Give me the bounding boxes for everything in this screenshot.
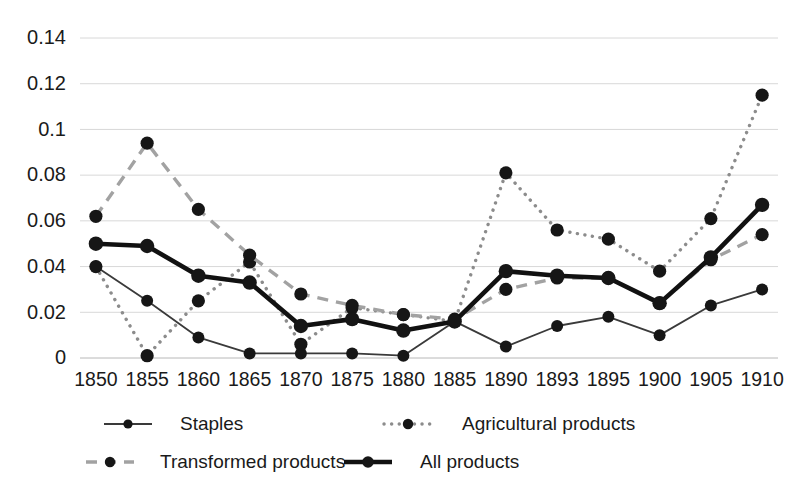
y-tick-label: 0.04 bbox=[27, 255, 66, 277]
legend-marker-swatch bbox=[123, 419, 132, 428]
y-tick-label: 0.02 bbox=[27, 301, 66, 323]
data-point-marker bbox=[294, 338, 307, 351]
data-point-marker bbox=[141, 137, 154, 150]
data-point-marker bbox=[397, 350, 409, 362]
x-tick-label: 1895 bbox=[587, 368, 631, 390]
data-point-marker bbox=[653, 265, 666, 278]
legend-item-transformed-products[interactable]: Transformed products bbox=[86, 451, 345, 472]
series-line bbox=[96, 143, 762, 319]
x-tick-label: 1865 bbox=[228, 368, 272, 390]
data-point-marker bbox=[345, 312, 359, 326]
data-point-marker bbox=[756, 89, 769, 102]
x-tick-label: 1885 bbox=[433, 368, 477, 390]
data-point-marker bbox=[141, 349, 154, 362]
y-axis-tick-labels: 00.020.040.060.080.10.120.14 bbox=[27, 26, 66, 368]
y-tick-label: 0.06 bbox=[27, 209, 66, 231]
data-point-marker bbox=[499, 264, 513, 278]
legend-marker-swatch bbox=[105, 457, 115, 467]
data-point-marker bbox=[192, 203, 205, 216]
x-tick-label: 1893 bbox=[535, 368, 578, 390]
data-point-marker bbox=[602, 233, 615, 246]
x-tick-label: 1850 bbox=[74, 368, 118, 390]
data-point-marker bbox=[192, 294, 205, 307]
data-point-marker bbox=[654, 329, 666, 341]
legend-marker-swatch bbox=[362, 456, 374, 468]
data-point-marker bbox=[499, 283, 512, 296]
x-tick-label: 1905 bbox=[689, 368, 733, 390]
data-point-marker bbox=[244, 347, 256, 359]
data-point-marker bbox=[602, 311, 614, 323]
x-tick-label: 1910 bbox=[740, 368, 784, 390]
x-tick-label: 1855 bbox=[125, 368, 169, 390]
data-point-marker bbox=[705, 299, 717, 311]
data-point-marker bbox=[294, 287, 307, 300]
y-tick-label: 0 bbox=[55, 346, 66, 368]
data-point-marker bbox=[191, 269, 205, 283]
data-point-marker bbox=[346, 347, 358, 359]
legend-label: Transformed products bbox=[160, 451, 345, 472]
series-line bbox=[96, 95, 762, 356]
data-point-marker bbox=[704, 212, 717, 225]
x-tick-label: 1900 bbox=[638, 368, 682, 390]
data-point-marker bbox=[704, 250, 718, 264]
y-tick-label: 0.12 bbox=[27, 72, 66, 94]
data-point-marker bbox=[192, 331, 204, 343]
data-point-marker bbox=[499, 166, 512, 179]
data-point-marker bbox=[652, 296, 666, 310]
x-tick-label: 1870 bbox=[279, 368, 323, 390]
data-point-marker bbox=[397, 308, 410, 321]
legend-label: Agricultural products bbox=[462, 413, 635, 434]
data-point-marker bbox=[756, 283, 768, 295]
x-tick-label: 1875 bbox=[330, 368, 374, 390]
gridlines bbox=[80, 38, 778, 358]
chart-legend: StaplesAgricultural productsTransformed … bbox=[86, 413, 635, 472]
data-point-marker bbox=[242, 275, 256, 289]
data-point-marker bbox=[140, 239, 154, 253]
data-point-marker bbox=[500, 341, 512, 353]
x-axis-tick-labels: 1850185518601865187018751880188518901893… bbox=[74, 368, 784, 390]
legend-label: Staples bbox=[180, 413, 243, 434]
x-tick-label: 1860 bbox=[177, 368, 221, 390]
legend-label: All products bbox=[420, 451, 519, 472]
data-point-marker bbox=[601, 271, 615, 285]
data-point-marker bbox=[89, 237, 103, 251]
data-point-marker bbox=[551, 223, 564, 236]
data-point-marker bbox=[756, 228, 769, 241]
x-tick-label: 1890 bbox=[484, 368, 528, 390]
data-point-marker bbox=[89, 210, 102, 223]
data-point-marker bbox=[89, 260, 102, 273]
chart-container: 00.020.040.060.080.10.120.14 18501855186… bbox=[0, 0, 792, 495]
legend-marker-swatch bbox=[403, 419, 413, 429]
y-tick-label: 0.08 bbox=[27, 163, 66, 185]
data-point-marker bbox=[294, 319, 308, 333]
x-tick-label: 1880 bbox=[382, 368, 426, 390]
legend-item-all-products[interactable]: All products bbox=[344, 451, 519, 472]
data-point-marker bbox=[447, 314, 461, 328]
data-point-marker bbox=[755, 198, 769, 212]
data-point-marker bbox=[551, 320, 563, 332]
data-point-marker bbox=[346, 299, 359, 312]
data-point-marker bbox=[141, 295, 153, 307]
data-point-marker bbox=[243, 249, 256, 262]
legend-item-agricultural-products[interactable]: Agricultural products bbox=[384, 413, 635, 434]
data-point-marker bbox=[396, 323, 410, 337]
legend-item-staples[interactable]: Staples bbox=[104, 413, 243, 434]
y-tick-label: 0.1 bbox=[38, 118, 66, 140]
y-tick-label: 0.14 bbox=[27, 26, 66, 48]
data-point-marker bbox=[550, 269, 564, 283]
line-chart: 00.020.040.060.080.10.120.14 18501855186… bbox=[0, 0, 792, 495]
